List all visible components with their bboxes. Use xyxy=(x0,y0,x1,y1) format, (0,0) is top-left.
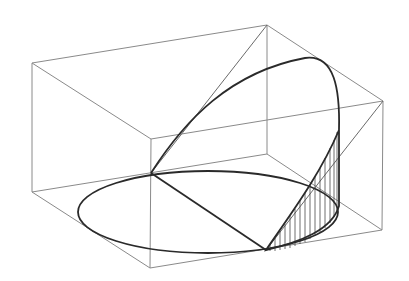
box-ellipse-diagram xyxy=(0,0,409,281)
diagram-canvas xyxy=(0,0,409,281)
box-top-face xyxy=(32,25,383,139)
hatched-region xyxy=(270,132,337,251)
box-vertical-edges xyxy=(32,25,383,268)
slanted-section-curve xyxy=(151,58,339,250)
radius-line xyxy=(151,173,266,250)
